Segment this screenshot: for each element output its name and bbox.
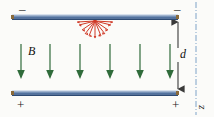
field-arrow bbox=[135, 44, 145, 80]
field-arrow bbox=[165, 44, 175, 80]
plate-end-cap-right bbox=[176, 91, 179, 95]
charge-sign-top-left: – bbox=[19, 2, 26, 15]
field-arrow bbox=[16, 44, 26, 80]
capacitor-plate-bottom bbox=[12, 90, 178, 96]
dimension-label-d: d bbox=[180, 47, 186, 62]
field-arrow bbox=[45, 44, 55, 80]
capacitor-plate-top bbox=[12, 14, 178, 20]
plate-end-cap-left bbox=[11, 91, 14, 95]
charge-sign-bottom-left: + bbox=[17, 98, 24, 111]
field-arrow bbox=[105, 44, 115, 80]
charge-sign-top-right: – bbox=[174, 2, 181, 15]
plate-end-cap-left bbox=[11, 15, 14, 19]
physics-figure-capacitor: – – + + B d z bbox=[0, 0, 214, 117]
axis-label-z: z bbox=[194, 105, 206, 109]
field-label-B: B bbox=[28, 44, 35, 59]
field-arrow bbox=[75, 44, 85, 80]
charge-sign-bottom-right: + bbox=[172, 98, 179, 111]
